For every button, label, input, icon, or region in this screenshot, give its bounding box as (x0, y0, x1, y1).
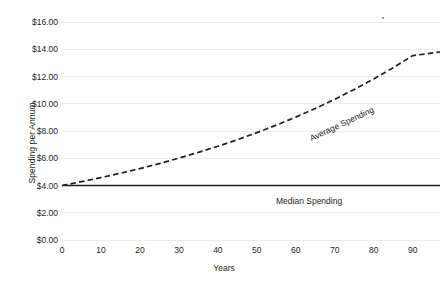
x-axis-tick-label: 90 (408, 246, 417, 255)
x-axis-tick-label: 0 (60, 246, 65, 255)
plot-area: Average Spending Median Spending (62, 22, 440, 240)
plot-svg (62, 22, 440, 240)
y-axis-tick-label: $8.00 (6, 127, 58, 136)
y-axis-tick-label: $16.00 (6, 18, 58, 27)
y-axis-tick-label: $4.00 (6, 181, 58, 190)
x-axis-tick-label: 20 (135, 246, 144, 255)
y-axis-tick-label: $6.00 (6, 154, 58, 163)
y-axis-tick-labels: $0.00$2.00$4.00$6.00$8.00$10.00$12.00$14… (0, 0, 58, 285)
series-label-median-spending: Median Spending (276, 196, 342, 206)
x-axis-tick-label: 10 (96, 246, 105, 255)
series-line-average-spending (62, 52, 440, 186)
scan-artifact-speck (382, 17, 384, 19)
x-axis-tick-label: 50 (252, 246, 261, 255)
series-lines (62, 52, 440, 186)
x-axis-tick-label: 30 (174, 246, 183, 255)
gridlines (62, 22, 440, 240)
y-axis-tick-label: $12.00 (6, 72, 58, 81)
y-axis-tick-label: $10.00 (6, 99, 58, 108)
x-axis-tick-label: 60 (291, 246, 300, 255)
y-axis-tick-label: $14.00 (6, 45, 58, 54)
x-axis-tick-labels: 0102030405060708090 (0, 246, 448, 258)
x-axis-tick-label: 70 (330, 246, 339, 255)
y-axis-tick-label: $2.00 (6, 208, 58, 217)
spending-line-chart: Spending per Annum $0.00$2.00$4.00$6.00$… (0, 0, 448, 285)
y-axis-tick-label: $0.00 (6, 236, 58, 245)
x-axis-tick-label: 40 (213, 246, 222, 255)
x-axis-title: Years (0, 263, 448, 273)
x-axis-tick-label: 80 (369, 246, 378, 255)
